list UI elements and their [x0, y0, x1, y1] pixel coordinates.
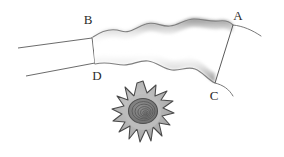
label-D: D: [92, 68, 101, 83]
label-C: C: [210, 88, 219, 103]
label-B: B: [84, 12, 93, 27]
figure-container: A B C D: [0, 0, 284, 157]
label-A: A: [233, 8, 243, 23]
scientific-diagram: A B C D: [0, 0, 284, 157]
